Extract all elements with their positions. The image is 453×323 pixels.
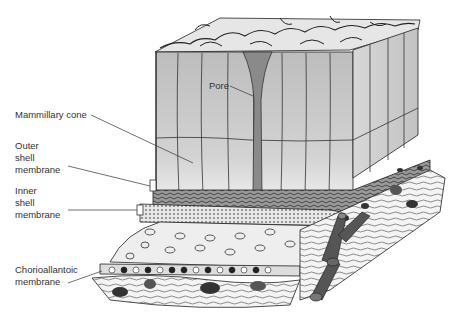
label-inner-shell-membrane: Inner shell membrane bbox=[15, 185, 60, 221]
label-mammillary-cone: Mammillary cone bbox=[15, 109, 87, 121]
chorioallantoic-membrane bbox=[92, 222, 330, 308]
shell-side-face bbox=[353, 28, 418, 178]
label-chorioallantoic-membrane: Chorioallantoic membrane bbox=[15, 264, 78, 288]
label-outer-shell-membrane: Outer shell membrane bbox=[15, 140, 60, 176]
label-pore: Pore bbox=[209, 80, 229, 92]
